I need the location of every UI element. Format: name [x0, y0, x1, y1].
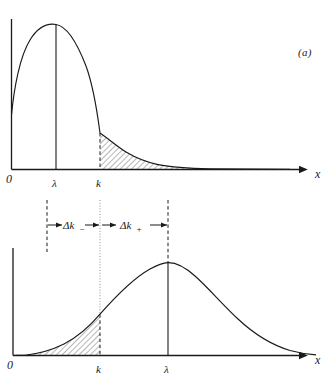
delta-k-plus-label-b: Δk: [119, 219, 132, 231]
distribution-curve-a: [12, 24, 291, 169]
panel-a-plot: 0 λ k x: [0, 0, 336, 190]
distribution-curve-b: [13, 263, 316, 356]
panel-b-plot: Δk − Δk + 0 k λ x: [0, 190, 336, 376]
delta-k-minus-subscript-b: −: [79, 224, 85, 234]
tick-label-lambda-b: λ: [163, 363, 169, 375]
tick-label-k-b: k: [96, 363, 102, 375]
origin-label-a: 0: [6, 172, 12, 186]
x-axis-name-a: x: [314, 167, 321, 181]
figure-root: 0 λ k x (a): [0, 0, 336, 376]
x-axis-name-b: x: [314, 353, 321, 367]
shaded-tail-region-b: [25, 314, 100, 355]
panel-b: Δk − Δk + 0 k λ x (b): [0, 190, 336, 376]
delta-k-minus-label-b: Δk: [62, 219, 75, 231]
tick-label-lambda-a: λ: [51, 177, 57, 189]
tick-label-k-a: k: [96, 177, 102, 189]
panel-a: 0 λ k x (a): [0, 0, 336, 190]
delta-k-plus-subscript-b: +: [136, 224, 142, 234]
panel-label-a: (a): [298, 46, 312, 58]
origin-label-b: 0: [7, 358, 13, 372]
